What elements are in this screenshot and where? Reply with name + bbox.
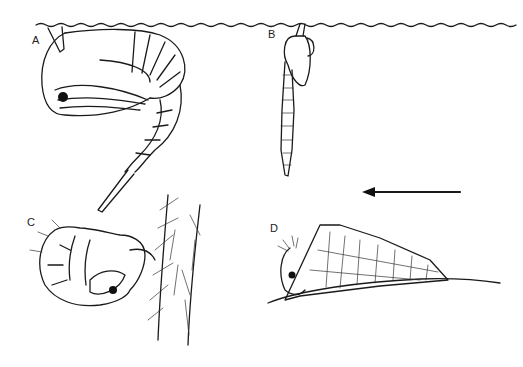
pupa-b-drawing	[281, 24, 314, 176]
eye-spot-c	[109, 286, 117, 294]
panel-label-d: D	[270, 222, 278, 234]
direction-arrow	[362, 187, 460, 197]
water-surface-line	[36, 24, 516, 27]
pupa-d-drawing	[268, 225, 500, 303]
panel-label-a: A	[32, 34, 39, 46]
panel-label-b: B	[268, 28, 275, 40]
pupa-a-drawing	[42, 27, 185, 212]
figure: A B C D	[0, 0, 523, 367]
panel-label-c: C	[27, 216, 35, 228]
eye-spot-a	[58, 92, 68, 102]
line-drawing	[0, 0, 523, 367]
pupa-c-drawing	[30, 195, 200, 345]
eye-spot-d	[289, 272, 296, 279]
